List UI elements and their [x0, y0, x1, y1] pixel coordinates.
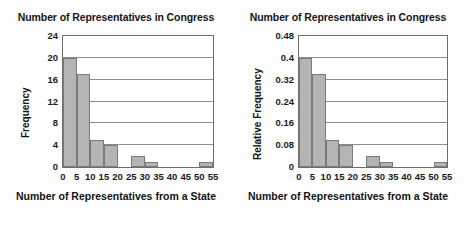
histogram-bar — [339, 145, 352, 167]
chart-title: Number of Representatives in Congress — [0, 11, 232, 23]
histogram-bar — [312, 74, 325, 167]
x-tick-label: 30 — [374, 171, 385, 183]
y-tick-label: 0.16 — [250, 118, 294, 128]
y-tick-label: 24 — [22, 31, 58, 41]
x-tick-label: 20 — [348, 171, 359, 183]
histogram-bar — [434, 162, 447, 167]
y-tick-label: 0 — [22, 162, 58, 172]
x-tick-label: 55 — [442, 171, 453, 183]
x-tick-label: 50 — [194, 171, 205, 183]
x-tick-label: 45 — [180, 171, 191, 183]
y-tick-label: 0.32 — [250, 75, 294, 85]
y-tick-label: 12 — [22, 97, 58, 107]
y-tick-label: 8 — [22, 118, 58, 128]
x-tick-label: 40 — [401, 171, 412, 183]
bars-layer — [63, 36, 213, 167]
histogram-bar — [326, 140, 339, 167]
histogram-bar — [145, 162, 159, 167]
x-tick-label: 5 — [74, 171, 79, 183]
x-tick-label: 25 — [361, 171, 372, 183]
histogram-bar — [199, 162, 213, 167]
x-tick-label: 25 — [126, 171, 137, 183]
y-tick-label: 20 — [22, 53, 58, 63]
x-tick-label: 5 — [310, 171, 315, 183]
histogram-bar — [63, 58, 77, 167]
frequency-histogram-figure: Number of Representatives in Congress Fr… — [0, 0, 232, 229]
y-tick-label: 0 — [250, 162, 294, 172]
y-tick-label: 0.4 — [250, 53, 294, 63]
histogram-bar — [90, 140, 104, 167]
plot-area — [298, 35, 448, 168]
x-tick-label: 30 — [140, 171, 151, 183]
x-tick-label: 35 — [388, 171, 399, 183]
histogram-bar — [366, 156, 379, 167]
y-tick-label: 0.08 — [250, 140, 294, 150]
x-tick-label: 50 — [428, 171, 439, 183]
x-tick-label: 10 — [321, 171, 332, 183]
relative-frequency-histogram-figure: Number of Representatives in Congress Re… — [232, 0, 464, 229]
chart-title: Number of Representatives in Congress — [232, 11, 464, 23]
x-tick-label: 55 — [208, 171, 219, 183]
y-tick-label: 4 — [22, 140, 58, 150]
x-tick-label: 0 — [296, 171, 301, 183]
x-tick-label: 15 — [334, 171, 345, 183]
histogram-bar — [299, 58, 312, 167]
x-tick-label: 15 — [99, 171, 110, 183]
x-tick-label: 20 — [112, 171, 123, 183]
histogram-bar — [380, 162, 393, 167]
x-tick-label: 45 — [415, 171, 426, 183]
y-tick-label: 0.48 — [250, 31, 294, 41]
x-axis-label: Number of Representatives from a State — [232, 190, 464, 202]
bars-layer — [299, 36, 447, 167]
plot-area — [62, 35, 214, 168]
x-tick-label: 0 — [60, 171, 65, 183]
histogram-bar — [77, 74, 91, 167]
y-tick-label: 0.24 — [250, 97, 294, 107]
x-tick-label: 10 — [85, 171, 96, 183]
x-tick-label: 40 — [167, 171, 178, 183]
x-axis-label: Number of Representatives from a State — [0, 190, 232, 202]
y-tick-label: 16 — [22, 75, 58, 85]
histogram-bar — [131, 156, 145, 167]
y-axis-label: Frequency — [20, 87, 31, 138]
x-tick-label: 35 — [153, 171, 164, 183]
histogram-bar — [104, 145, 118, 167]
